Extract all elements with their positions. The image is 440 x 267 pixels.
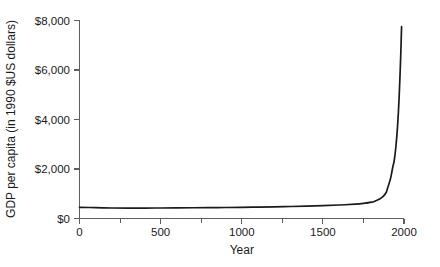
x-axis-title: Year <box>230 243 254 257</box>
y-tick-label-4000: $4,000 <box>35 114 70 126</box>
x-tick-label-1500: 1500 <box>310 226 336 238</box>
y-tick-label-6000: $6,000 <box>35 64 70 76</box>
y-tick-label-2000: $2,000 <box>35 163 70 175</box>
x-tick-label-1000: 1000 <box>229 226 255 238</box>
y-tick-label-8000: $8,000 <box>35 15 70 27</box>
x-tick-label-500: 500 <box>151 226 170 238</box>
gdp-per-capita-line-chart: $8,000 $6,000 $4,000 $2,000 $0 0 500 100… <box>0 0 440 267</box>
y-axis-title: GDP per capita (in 1990 $US dollars) <box>4 20 18 218</box>
chart-container: $8,000 $6,000 $4,000 $2,000 $0 0 500 100… <box>0 0 440 267</box>
chart-background <box>0 0 440 267</box>
x-tick-label-0: 0 <box>76 226 82 238</box>
y-tick-label-0: $0 <box>57 213 70 225</box>
x-tick-label-2000: 2000 <box>391 226 417 238</box>
